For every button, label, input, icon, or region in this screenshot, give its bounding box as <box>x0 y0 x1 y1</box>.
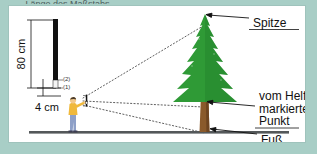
observer-legs <box>70 114 76 132</box>
held-rod <box>86 95 88 107</box>
tree-foliage-shade <box>205 14 237 102</box>
observer-figure <box>69 95 88 133</box>
figure-root: ...Länge des Maßstabs <box>0 0 317 154</box>
observer-shirt <box>69 103 78 115</box>
figure-caption-cropped: ...Länge des Maßstabs <box>18 0 128 4</box>
sight-line-foot <box>83 105 205 133</box>
observer-shoe-right <box>73 131 77 133</box>
arrow-line-point <box>209 102 255 106</box>
label-fuss: Fuß <box>261 133 282 143</box>
label-spitze: Spitze <box>253 16 286 30</box>
label-marked-point: vom Helfer markierter Punkt <box>259 90 306 128</box>
held-rod-segment <box>86 102 88 104</box>
arrow-head-tip <box>206 13 212 17</box>
figure-panel: 80 cm 4 cm (2) (1) <box>8 5 306 143</box>
arrow-line-tip <box>208 15 249 18</box>
observer-shoe-left <box>69 131 73 133</box>
label-marked-point-line1: vom Helfer <box>259 90 306 103</box>
figure-panel-inner: 80 cm 4 cm (2) (1) <box>9 6 305 142</box>
label-marked-point-line3: Punkt <box>259 115 306 128</box>
fir-tree <box>173 14 237 132</box>
